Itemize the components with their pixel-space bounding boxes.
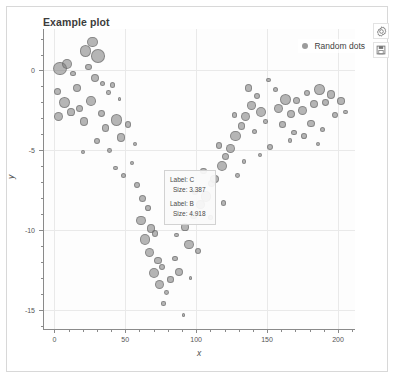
data-point[interactable] xyxy=(70,71,76,77)
data-point[interactable] xyxy=(263,119,268,124)
data-point[interactable] xyxy=(159,264,165,270)
data-point[interactable] xyxy=(91,74,99,82)
data-point[interactable] xyxy=(125,121,132,128)
data-point[interactable] xyxy=(113,166,117,170)
data-point[interactable] xyxy=(76,105,83,112)
data-point[interactable] xyxy=(110,82,115,87)
data-point[interactable] xyxy=(217,161,227,171)
data-point[interactable] xyxy=(301,133,307,139)
legend[interactable]: Random dots xyxy=(298,39,369,53)
data-point[interactable] xyxy=(172,256,177,261)
data-point[interactable] xyxy=(254,93,260,99)
data-point[interactable] xyxy=(164,290,169,295)
data-point[interactable] xyxy=(87,37,97,47)
data-point[interactable] xyxy=(242,159,246,163)
data-point[interactable] xyxy=(247,101,255,109)
data-point[interactable] xyxy=(155,280,164,289)
data-point[interactable] xyxy=(252,129,257,134)
data-point[interactable] xyxy=(139,195,146,202)
page-title: Example plot xyxy=(43,16,110,28)
data-point[interactable] xyxy=(280,94,291,105)
data-point[interactable] xyxy=(343,110,348,115)
save-button[interactable] xyxy=(373,42,389,58)
data-point[interactable] xyxy=(98,110,105,117)
y-axis-tick xyxy=(41,278,44,279)
data-point[interactable] xyxy=(232,112,238,118)
data-point[interactable] xyxy=(167,276,173,282)
data-point[interactable] xyxy=(238,122,246,130)
data-point[interactable] xyxy=(54,112,63,121)
data-point[interactable] xyxy=(182,313,186,317)
data-point[interactable] xyxy=(258,153,263,158)
data-point[interactable] xyxy=(245,84,253,92)
data-point[interactable] xyxy=(154,257,162,265)
data-point[interactable] xyxy=(140,234,151,245)
data-point[interactable] xyxy=(106,90,111,95)
data-point[interactable] xyxy=(273,87,278,92)
data-point[interactable] xyxy=(337,97,345,105)
data-point[interactable] xyxy=(149,268,159,278)
settings-button[interactable] xyxy=(373,23,389,39)
data-point[interactable] xyxy=(314,84,324,94)
data-point[interactable] xyxy=(100,81,105,86)
data-point[interactable] xyxy=(274,104,283,113)
data-point[interactable] xyxy=(230,131,241,142)
data-point[interactable] xyxy=(117,133,125,141)
data-point[interactable] xyxy=(279,121,286,128)
data-point[interactable] xyxy=(288,138,292,142)
data-point[interactable] xyxy=(310,100,319,109)
data-point[interactable] xyxy=(226,144,235,153)
data-point[interactable] xyxy=(189,276,193,280)
data-point[interactable] xyxy=(94,138,100,144)
data-point[interactable] xyxy=(222,153,229,160)
y-axis-tick xyxy=(41,86,44,87)
data-point[interactable] xyxy=(152,230,159,237)
data-point[interactable] xyxy=(256,107,266,117)
data-point[interactable] xyxy=(235,173,240,178)
data-point[interactable] xyxy=(80,117,89,126)
data-point[interactable] xyxy=(293,97,300,104)
data-point[interactable] xyxy=(221,200,226,205)
y-axis-tick xyxy=(41,102,44,103)
data-point[interactable] xyxy=(320,127,325,132)
data-point[interactable] xyxy=(298,106,308,116)
data-point[interactable] xyxy=(175,268,183,276)
data-point[interactable] xyxy=(62,59,72,69)
data-point[interactable] xyxy=(145,248,154,257)
data-point[interactable] xyxy=(130,161,134,165)
data-point[interactable] xyxy=(85,64,91,70)
y-axis-tick xyxy=(41,246,44,247)
data-point[interactable] xyxy=(327,90,335,98)
data-point[interactable] xyxy=(91,49,105,63)
data-point[interactable] xyxy=(134,182,140,188)
data-point[interactable] xyxy=(54,88,61,95)
gridline-horizontal xyxy=(43,70,355,71)
data-point[interactable] xyxy=(291,130,296,135)
data-point[interactable] xyxy=(102,124,110,132)
data-point[interactable] xyxy=(216,142,222,148)
data-point[interactable] xyxy=(59,97,70,108)
data-point[interactable] xyxy=(111,114,122,125)
data-point[interactable] xyxy=(307,120,314,127)
data-point[interactable] xyxy=(316,142,320,146)
plot-toolbar[interactable] xyxy=(372,23,390,58)
data-point[interactable] xyxy=(241,112,250,121)
data-point[interactable] xyxy=(81,150,85,154)
data-point[interactable] xyxy=(184,240,194,250)
data-point[interactable] xyxy=(161,301,165,305)
data-point[interactable] xyxy=(304,90,310,96)
data-point[interactable] xyxy=(107,148,112,153)
data-point[interactable] xyxy=(67,108,75,116)
data-point[interactable] xyxy=(86,96,96,106)
data-point[interactable] xyxy=(136,216,145,225)
data-point[interactable] xyxy=(133,142,137,146)
data-point[interactable] xyxy=(145,205,151,211)
data-point[interactable] xyxy=(266,78,270,82)
data-point[interactable] xyxy=(322,99,329,106)
data-point[interactable] xyxy=(118,97,122,101)
data-point[interactable] xyxy=(174,233,179,238)
data-point[interactable] xyxy=(287,110,295,118)
data-point[interactable] xyxy=(73,84,81,92)
data-point[interactable] xyxy=(80,45,92,57)
data-point[interactable] xyxy=(195,248,201,254)
